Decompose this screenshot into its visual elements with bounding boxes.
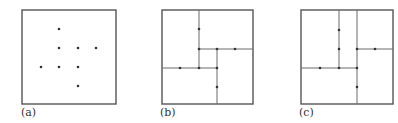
panel-c [301, 10, 393, 104]
point [58, 66, 61, 69]
panel-c-label: (c) [299, 107, 314, 119]
panel-b-label: (b) [160, 107, 176, 119]
point [374, 48, 377, 51]
panel-a-points [40, 28, 98, 88]
point [179, 67, 182, 70]
diagram-canvas [0, 0, 398, 123]
panel-b [162, 10, 253, 104]
panel-a-label: (a) [21, 107, 36, 119]
point [198, 48, 201, 51]
point [338, 67, 341, 70]
point [356, 86, 359, 89]
point [198, 28, 201, 31]
point [216, 67, 219, 70]
point [234, 48, 237, 51]
point [58, 47, 61, 50]
point [198, 67, 201, 70]
point [58, 28, 61, 31]
point [216, 86, 219, 89]
point [40, 66, 43, 69]
panel-c-frame [301, 10, 393, 104]
point [95, 47, 98, 50]
panel-c-segments [301, 10, 393, 104]
panel-c-points [319, 29, 377, 89]
panel-a [22, 10, 116, 104]
panel-b-segments [162, 10, 253, 104]
point [338, 48, 341, 51]
point [319, 67, 322, 70]
point [356, 67, 359, 70]
point [77, 85, 80, 88]
point [338, 29, 341, 32]
point [216, 48, 219, 51]
point [356, 48, 359, 51]
point [77, 66, 80, 69]
panel-b-frame [162, 10, 253, 104]
panel-a-frame [22, 10, 116, 104]
point [77, 47, 80, 50]
panel-b-points [179, 28, 237, 89]
